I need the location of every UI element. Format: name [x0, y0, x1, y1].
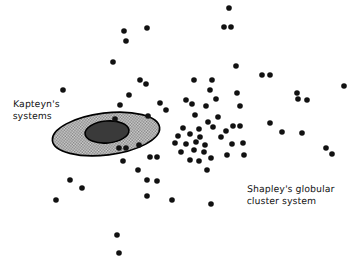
data-point — [237, 103, 243, 109]
data-point — [187, 131, 193, 137]
data-point — [295, 96, 301, 102]
data-point — [147, 154, 153, 160]
data-point — [193, 139, 199, 145]
data-point — [341, 83, 347, 89]
kapteyn-systems-label: Kapteyn's systems — [13, 98, 60, 121]
data-point — [210, 124, 216, 130]
data-point — [145, 113, 151, 119]
data-point — [126, 92, 132, 98]
data-point — [323, 145, 329, 151]
data-point — [240, 140, 246, 146]
data-point — [329, 151, 335, 157]
data-point — [192, 112, 198, 118]
data-point — [183, 141, 189, 147]
data-point — [180, 125, 186, 131]
data-point — [213, 96, 219, 102]
data-point — [136, 142, 142, 148]
data-point — [191, 77, 197, 83]
data-point — [215, 114, 221, 120]
data-point — [114, 232, 120, 238]
data-point — [304, 97, 310, 103]
data-point — [203, 103, 209, 109]
data-point — [267, 72, 273, 78]
data-point — [294, 90, 300, 96]
data-point — [143, 81, 149, 87]
kapteyn-ellipses-group — [50, 107, 162, 162]
data-point — [207, 87, 213, 93]
data-point — [112, 116, 118, 122]
data-point — [233, 63, 239, 69]
data-point — [121, 28, 127, 34]
data-point — [154, 178, 160, 184]
data-point — [224, 152, 230, 158]
data-point — [204, 167, 210, 173]
data-point — [221, 24, 227, 30]
data-point — [299, 130, 305, 136]
data-point — [279, 129, 285, 135]
shapley-globular-cluster-label: Shapley's globular cluster system — [247, 183, 335, 206]
data-point — [79, 185, 85, 191]
data-point — [60, 87, 66, 93]
data-point — [117, 102, 123, 108]
data-point — [116, 145, 122, 151]
data-point — [205, 119, 211, 125]
data-point — [196, 126, 202, 132]
data-point — [209, 77, 215, 83]
data-point — [53, 197, 59, 203]
data-point — [208, 155, 214, 161]
data-point — [116, 250, 122, 256]
data-point — [178, 149, 184, 155]
data-point — [110, 59, 116, 65]
data-point — [196, 158, 202, 164]
data-point — [237, 123, 243, 129]
data-point — [228, 24, 234, 30]
data-point — [144, 177, 150, 183]
data-point — [202, 142, 208, 148]
data-point — [120, 158, 126, 164]
data-point — [218, 134, 224, 140]
data-point — [241, 152, 247, 158]
data-point — [183, 97, 189, 103]
data-point — [201, 149, 207, 155]
data-point — [137, 77, 143, 83]
data-point — [144, 193, 150, 199]
data-point — [208, 201, 214, 207]
data-point — [123, 38, 129, 44]
data-point — [191, 147, 197, 153]
data-point — [234, 90, 240, 96]
data-point — [135, 167, 141, 173]
data-point — [197, 134, 203, 140]
data-point — [123, 145, 129, 151]
scatter-plot-canvas — [0, 0, 360, 259]
data-point — [154, 154, 160, 160]
data-point — [229, 141, 235, 147]
data-point — [259, 72, 265, 78]
data-point — [189, 101, 195, 107]
data-point — [187, 157, 193, 163]
data-point — [226, 5, 232, 11]
data-point — [223, 128, 229, 134]
data-point — [163, 107, 169, 113]
data-point — [67, 177, 73, 183]
data-point — [169, 197, 175, 203]
data-point — [144, 25, 150, 31]
data-point — [230, 123, 236, 129]
data-point — [175, 133, 181, 139]
astronomy-scatter-figure: Kapteyn's systems Shapley's globular clu… — [0, 0, 360, 259]
data-point — [267, 120, 273, 126]
data-point — [172, 140, 178, 146]
data-point — [157, 100, 163, 106]
